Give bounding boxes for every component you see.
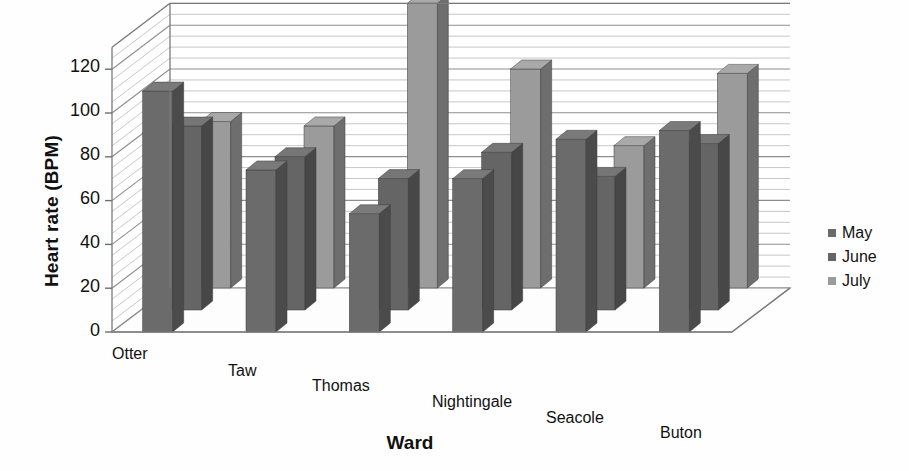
bar-taw-may	[246, 161, 287, 332]
chart-plot-area	[0, 0, 909, 471]
bar-thomas-may	[349, 205, 390, 332]
bar-buton-may	[659, 122, 700, 332]
bar-otter-may	[143, 82, 184, 332]
bar-nightingale-may	[453, 170, 494, 332]
chart-figure: Heart rate (BPM) Ward 120 100 80 60 40 2…	[0, 0, 909, 471]
bar-seacole-may	[556, 130, 597, 332]
